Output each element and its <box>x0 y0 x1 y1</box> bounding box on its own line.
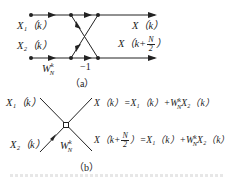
caption-b: （b） <box>74 163 99 173</box>
equation-head: X（k）=X₁（k）+W <box>94 98 178 108</box>
label-a-input-top: X₁（k） <box>17 21 52 32</box>
equation-mid: ）=X₁（k）+W <box>130 135 194 145</box>
label-b-input-top: X₁（k） <box>6 98 41 109</box>
label-a-output-bottom: X（k+N2） <box>118 36 166 53</box>
cropped-caption-line <box>10 174 225 177</box>
twiddle-sup: k <box>51 61 54 68</box>
label-a-twiddle: WkN <box>42 62 54 76</box>
fraction-den: 2 <box>123 141 127 149</box>
node-square <box>64 123 69 128</box>
equation-head: X（k+ <box>94 135 120 145</box>
arrow-icon <box>48 12 56 18</box>
equation-tail: X₂（k） <box>181 98 214 108</box>
arrow-icon <box>75 44 81 52</box>
label-a-minus-one: −1 <box>80 62 91 72</box>
label-b-output-top: X（k）=X₁（k）+WkNX₂（k） <box>94 97 215 111</box>
fraction-n-over-2: N2 <box>121 132 128 149</box>
label-b-input-bottom: X₂（k） <box>10 140 45 151</box>
twiddle-sup: k <box>69 138 72 145</box>
label-a-output-top: X（k） <box>132 21 163 32</box>
equation-tail: X₂（k） <box>197 135 230 145</box>
fraction-den: 2 <box>149 45 153 53</box>
output-suffix: ） <box>156 38 166 49</box>
twiddle-sub: N <box>50 69 54 76</box>
twiddle-sub: N <box>68 146 72 153</box>
arrow-icon <box>84 12 92 18</box>
caption-a: （a） <box>70 79 94 89</box>
arrow-icon <box>148 12 157 18</box>
label-a-input-bottom: X₂（k） <box>17 41 52 52</box>
label-b-twiddle: WkN <box>60 139 72 153</box>
label-b-output-bottom: X（k+N2）=X₁（k）+WkNX₂（k） <box>94 132 230 149</box>
output-prefix: X（k+ <box>118 38 146 49</box>
arrow-icon <box>148 55 157 61</box>
arrow-icon <box>75 21 81 29</box>
arrow-icon <box>50 134 56 141</box>
fraction-n-over-2: N2 <box>147 36 154 53</box>
